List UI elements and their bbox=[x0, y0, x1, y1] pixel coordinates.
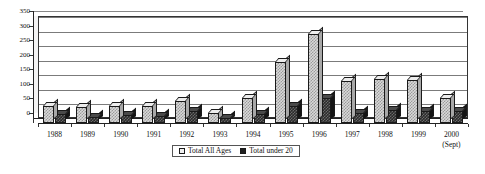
bar-front-face bbox=[407, 80, 418, 123]
chart-legend: Total All Ages Total under 20 bbox=[172, 145, 300, 157]
bar-group bbox=[109, 16, 132, 123]
y-axis-tick-mark bbox=[29, 40, 33, 41]
bar-group bbox=[341, 16, 364, 123]
x-axis-tick-mark bbox=[71, 124, 72, 127]
x-axis-tick-mark bbox=[303, 124, 304, 127]
y-axis: 050100150200250300350 bbox=[0, 0, 38, 130]
bar-total-under-20 bbox=[88, 117, 99, 123]
bar-front-face bbox=[175, 101, 186, 123]
bar-total-all-ages bbox=[440, 98, 451, 123]
bar-group bbox=[76, 16, 99, 123]
bar-total-all-ages bbox=[341, 81, 352, 123]
x-axis-tick-mark bbox=[468, 124, 469, 127]
axis-riser bbox=[33, 118, 34, 123]
x-tick-year: 1995 bbox=[279, 130, 294, 139]
bar-group bbox=[43, 16, 66, 123]
bar-group bbox=[374, 16, 397, 123]
bar-front-face bbox=[242, 98, 253, 123]
y-axis-tick-mark bbox=[29, 69, 33, 70]
x-axis-tick-mark bbox=[170, 124, 171, 127]
bar-group bbox=[242, 16, 265, 123]
bar-side-face bbox=[319, 27, 323, 119]
bar-front-face bbox=[275, 62, 286, 123]
legend-label: Total All Ages bbox=[188, 147, 231, 155]
x-axis-tick-mark bbox=[270, 124, 271, 127]
bar-group bbox=[275, 16, 298, 123]
bar-total-all-ages bbox=[374, 79, 385, 123]
legend-item-total-all-ages: Total All Ages bbox=[179, 147, 231, 155]
x-axis-tick-mark bbox=[402, 124, 403, 127]
x-tick-year: 1989 bbox=[80, 130, 95, 139]
x-axis-tick-mark bbox=[336, 124, 337, 127]
bar-total-all-ages bbox=[242, 98, 253, 123]
x-axis-tick-label: 1988 bbox=[47, 130, 62, 140]
x-axis-tick-label: 1993 bbox=[212, 130, 227, 140]
x-tick-year: 1994 bbox=[246, 130, 261, 139]
bar-side-face bbox=[385, 72, 389, 119]
bar-group bbox=[142, 16, 165, 123]
bar-front-face bbox=[43, 106, 54, 123]
x-axis-tick-mark bbox=[137, 124, 138, 127]
x-axis-tick-label: 1994 bbox=[246, 130, 261, 140]
bar-front-face bbox=[208, 113, 219, 123]
bar-total-all-ages bbox=[43, 106, 54, 123]
chart-container: 050100150200250300350 198819891990199119… bbox=[0, 0, 485, 174]
bar-front-face bbox=[341, 81, 352, 123]
bar-front-face bbox=[308, 34, 319, 123]
x-tick-year: 1993 bbox=[212, 130, 227, 139]
x-tick-year: 2000 bbox=[444, 130, 459, 139]
bar-total-all-ages bbox=[175, 101, 186, 123]
bar-total-all-ages bbox=[308, 34, 319, 123]
legend-item-total-under-20: Total under 20 bbox=[240, 147, 293, 155]
x-axis-tick-label: 1992 bbox=[179, 130, 194, 140]
bar-group bbox=[407, 16, 430, 123]
y-axis-tick-mark bbox=[29, 11, 33, 12]
y-axis-tick-mark bbox=[29, 84, 33, 85]
x-axis-tick-label: 1997 bbox=[345, 130, 360, 140]
bar-total-all-ages bbox=[407, 80, 418, 123]
x-axis-tick-label: 1998 bbox=[378, 130, 393, 140]
bar-total-all-ages bbox=[76, 107, 87, 123]
x-axis-tick-mark bbox=[369, 124, 370, 127]
y-axis-tick-mark bbox=[29, 55, 33, 56]
x-tick-year: 1991 bbox=[146, 130, 161, 139]
y-axis-tick-mark bbox=[29, 26, 33, 27]
x-axis-tick-label: 1990 bbox=[113, 130, 128, 140]
bar-front-face bbox=[440, 98, 451, 123]
x-tick-year: 1988 bbox=[47, 130, 62, 139]
x-axis-tick-label: 1995 bbox=[279, 130, 294, 140]
x-axis-tick-mark bbox=[203, 124, 204, 127]
x-tick-year: 1990 bbox=[113, 130, 128, 139]
x-tick-year: 1997 bbox=[345, 130, 360, 139]
bar-front-face bbox=[374, 79, 385, 123]
legend-label: Total under 20 bbox=[249, 147, 293, 155]
bar-front-face bbox=[76, 107, 87, 123]
x-axis-tick-label: 1999 bbox=[411, 130, 426, 140]
bar-side-face bbox=[418, 73, 422, 119]
bar-front-face bbox=[88, 117, 99, 123]
bar-group bbox=[175, 16, 198, 123]
x-axis-tick-label: 2000(Sept) bbox=[442, 130, 460, 150]
x-tick-year: 1999 bbox=[411, 130, 426, 139]
bar-group bbox=[208, 16, 231, 123]
bar-front-face bbox=[142, 106, 153, 123]
x-tick-year: 1992 bbox=[179, 130, 194, 139]
x-axis-tick-mark bbox=[38, 124, 39, 127]
x-axis-tick-label: 1996 bbox=[312, 130, 327, 140]
dark-swatch-icon bbox=[240, 148, 246, 154]
bar-side-face bbox=[286, 55, 290, 119]
x-tick-note: (Sept) bbox=[442, 140, 460, 150]
x-axis-tick-label: 1991 bbox=[146, 130, 161, 140]
bar-total-all-ages bbox=[275, 62, 286, 123]
y-axis-tick-mark bbox=[29, 98, 33, 99]
bar-total-all-ages bbox=[142, 106, 153, 123]
x-axis-tick-label: 1989 bbox=[80, 130, 95, 140]
bar-front-face bbox=[220, 118, 231, 123]
light-swatch-icon bbox=[179, 148, 185, 154]
bar-total-all-ages bbox=[109, 106, 120, 123]
bar-total-under-20 bbox=[220, 118, 231, 123]
y-axis-tick-mark bbox=[29, 113, 33, 114]
x-axis-tick-mark bbox=[104, 124, 105, 127]
x-tick-year: 1998 bbox=[378, 130, 393, 139]
x-tick-year: 1996 bbox=[312, 130, 327, 139]
